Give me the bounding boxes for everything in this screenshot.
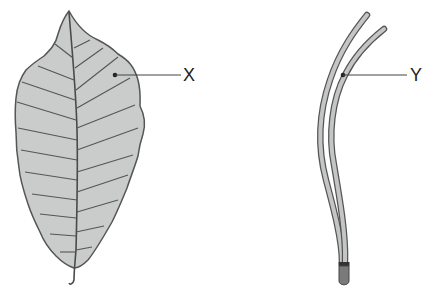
diagram-canvas [0, 0, 424, 290]
label-x: X [183, 66, 195, 84]
label-y: Y [410, 66, 422, 84]
label-y-pointer [341, 73, 407, 78]
needle-sheath [339, 262, 350, 266]
broad-leaf [15, 11, 144, 284]
pine-needles [320, 15, 384, 285]
leaf-blade [15, 11, 144, 268]
